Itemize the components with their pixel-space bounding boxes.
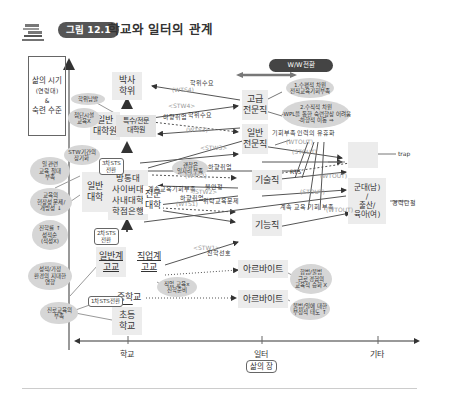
node-unemployment — [348, 142, 378, 168]
label-career-break: 경력단절 — [392, 198, 416, 207]
label-retrain-issue: 위탁교육문제 — [203, 196, 239, 205]
flow-stout-2: (STOUT) — [300, 188, 325, 195]
bubble-wiw-vertical: 2.수직적 차원 -WPL을 통한 숙련향상 어려움 -하향적 이동 ⇒ — [282, 100, 350, 128]
legend-line3: & — [29, 96, 65, 106]
wiw-transition-badge: W/W전환 — [269, 59, 333, 72]
node-technician: 기술직 — [252, 170, 282, 190]
bubble-stw-long: STW기간의 장기화 — [64, 145, 100, 165]
flow-stw3: <STW3> — [200, 144, 227, 151]
bubble-degree-abuse: 학위남발 — [71, 93, 105, 105]
legend-line1: 삶의 시기 — [29, 76, 65, 86]
node-general-hs: 일반계 고교 — [96, 247, 126, 277]
label-rts: RTS — [290, 168, 301, 175]
bubble-parttime-attitude: 불법/일에 대한 부정적 태도 ↑ — [290, 298, 330, 320]
flow-stw1: <STW1> — [193, 244, 220, 251]
label-degree-demand-2: 학위수요 — [188, 110, 212, 119]
node-military-parenting: 군대(남) / 출산/ 육아(여) — [348, 178, 386, 224]
x-tick-other: 기타 — [370, 348, 384, 359]
flow-wts1: (WTS1) — [176, 200, 198, 207]
sts3-transition: 3차STS 전환 — [99, 158, 124, 175]
flow-wtout-3: (WTOUT) — [326, 206, 353, 213]
sts2-transition: 2차STS 전환 — [94, 228, 119, 245]
node-voc-hs: 직업계 고교 — [134, 247, 164, 277]
flow-wtout-2: (WTOUT) — [320, 172, 347, 179]
label-underemploy-2: 하향취업 — [208, 162, 232, 171]
node-special-grad: 특수/전문 대학원 — [116, 115, 156, 137]
node-elementary: 초등 학교 — [112, 307, 142, 335]
label-labor-idle: 인력의 유휴화 — [297, 128, 335, 137]
flow-stout-1: (STOUT) — [292, 148, 317, 155]
node-phd: 박사 학위 — [112, 72, 142, 100]
flow-stw2: <STW2> — [190, 188, 217, 195]
node-parttime-2: 아르바이트 — [238, 290, 288, 308]
bubble-job-education: 일 관련 교육 절대 부족 — [30, 157, 70, 185]
flow-wtout-1: (WTOUT) — [286, 138, 313, 145]
node-general-univ: 일반 대학 — [82, 172, 108, 212]
bubble-wiw-horizontal: 1.수평적 차원 전직교육기회부족 — [286, 78, 334, 98]
bubble-cutting-edge: 첨단시설 교육X — [68, 108, 100, 128]
node-general-pro: 일반 전문직 — [242, 124, 268, 154]
bubble-career-education: 진로교육의 부족 — [40, 302, 78, 324]
flow-wts2: (WTS2) — [185, 172, 207, 179]
bubble-advance-grade: 진학률 ↑ 성적순 (적성X) — [32, 220, 68, 250]
x-axis-label: 삶의 장 — [246, 360, 277, 373]
flow-stw4: <STW4> — [168, 102, 195, 109]
bubble-parttime-education: 합법/불법 근로 경험의 교육적 승화 X — [290, 264, 332, 294]
x-tick-school: 학교 — [120, 348, 134, 359]
label-underemploy-1: 하향취업 — [163, 112, 187, 121]
node-alt-univ: 방통대 사이버대 사내대학 학점은행 — [108, 170, 148, 220]
flow-wts3: (WTS3) — [186, 126, 208, 133]
label-trap: trap — [398, 150, 410, 157]
flow-wts4: (WTS4) — [172, 86, 194, 93]
node-senior-pro: 고급 전문직 — [242, 90, 268, 120]
node-parttime-1: 아르바이트 — [238, 260, 288, 278]
bubble-voc-education: 직업 교육x 진학준비 — [157, 277, 197, 297]
node-skilled: 기능직 — [252, 214, 282, 236]
bottom-divider — [22, 388, 417, 389]
bubble-field-issue: 교육의 현장성 문제/ 개방성 ↓ — [30, 188, 72, 216]
x-tick-workplace: 일터 — [254, 348, 268, 359]
legend-line4: 숙련 수준 — [29, 106, 65, 116]
sts1-transition: 1차STS전환 — [88, 296, 123, 307]
bubble-family-influence: 성적/가정 환경의 지대한 영향 — [28, 262, 72, 290]
legend-line2: (연령대) — [29, 86, 65, 96]
label-lack-opportunity: 기회부족 — [272, 128, 296, 137]
label-cont-edu-lack: 계속교육기회부족 — [148, 184, 196, 193]
y-axis-legend: 삶의 시기 (연령대) & 숙련 수준 — [28, 56, 66, 136]
